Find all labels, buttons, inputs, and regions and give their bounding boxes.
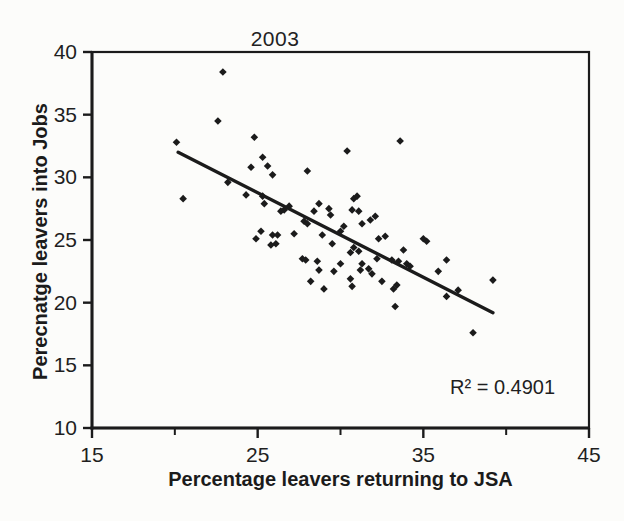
y-tick-label: 40 (54, 40, 77, 63)
plot-area: 4035302520151015253545 (0, 0, 624, 521)
y-tick-label: 25 (54, 228, 77, 251)
scatter-point (242, 191, 250, 199)
scatter-point (219, 68, 227, 76)
scatter-point (214, 117, 222, 125)
scatter-point (315, 266, 323, 274)
scatter-point (260, 200, 268, 208)
scatter-point (274, 231, 282, 239)
r-squared-annotation: R² = 0.4901 (450, 376, 555, 399)
scatter-point (327, 211, 335, 219)
scatter-point (264, 162, 272, 170)
scatter-point (358, 220, 366, 228)
y-tick-label: 10 (54, 416, 77, 439)
scatter-point (304, 167, 312, 175)
scatter-point (355, 207, 363, 215)
scatter-point (330, 268, 338, 276)
scatter-plot-figure: 2003 Perecnatge leavers into Jobs 403530… (0, 0, 624, 521)
scatter-point (314, 258, 322, 266)
scatter-point (489, 276, 497, 284)
scatter-point (443, 293, 451, 301)
scatter-point (325, 205, 333, 213)
scatter-point (378, 278, 386, 286)
scatter-point (391, 303, 399, 311)
scatter-point (375, 235, 383, 243)
scatter-point (307, 278, 315, 286)
x-tick-label: 35 (412, 443, 435, 466)
scatter-point (290, 230, 298, 238)
scatter-point (173, 138, 181, 146)
scatter-point (381, 232, 389, 240)
y-tick-label: 30 (54, 165, 77, 188)
scatter-point (320, 285, 328, 293)
y-tick-label: 35 (54, 103, 77, 126)
scatter-point (310, 207, 318, 215)
scatter-point (347, 275, 355, 283)
scatter-point (315, 200, 323, 208)
x-axis-label: Percentage leavers returning to JSA (92, 468, 589, 491)
scatter-point (252, 235, 260, 243)
scatter-point (469, 329, 477, 337)
y-tick-label: 20 (54, 291, 77, 314)
plot-frame (92, 52, 589, 428)
scatter-point (357, 266, 365, 274)
scatter-point (318, 231, 326, 239)
scatter-point (337, 260, 345, 268)
scatter-point (434, 268, 442, 276)
scatter-point (348, 283, 356, 291)
scatter-point (179, 195, 187, 203)
scatter-point (251, 133, 259, 141)
trend-line (178, 152, 493, 312)
scatter-point (259, 153, 267, 161)
x-tick-label: 25 (246, 443, 269, 466)
scatter-point (247, 164, 255, 172)
scatter-point (396, 137, 404, 145)
y-tick-label: 15 (54, 353, 77, 376)
scatter-point (257, 227, 265, 235)
scatter-point (358, 260, 366, 268)
x-tick-label: 15 (80, 443, 103, 466)
scatter-point (343, 147, 351, 155)
scatter-point (443, 256, 451, 264)
scatter-point (328, 240, 336, 248)
scatter-point (348, 206, 356, 214)
scatter-point (269, 171, 277, 179)
scatter-point (400, 246, 408, 254)
x-tick-label: 45 (577, 443, 600, 466)
